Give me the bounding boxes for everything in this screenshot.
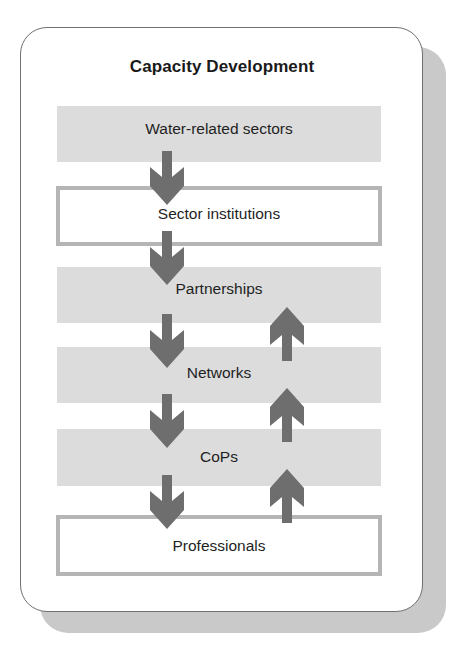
level-sector-institutions: Sector institutions: [56, 186, 382, 246]
level-label: Networks: [57, 364, 381, 382]
level-label: CoPs: [57, 448, 381, 466]
down-arrow-icon: [148, 394, 186, 449]
up-arrow-icon: [268, 469, 306, 524]
down-arrow-icon: [148, 475, 186, 530]
level-label: Partnerships: [57, 280, 381, 298]
down-arrow-icon: [148, 314, 186, 369]
level-networks: Networks: [57, 347, 381, 403]
level-professionals: Professionals: [56, 515, 382, 576]
down-arrow-icon: [148, 231, 186, 286]
level-partnerships: Partnerships: [57, 267, 381, 323]
up-arrow-icon: [268, 307, 306, 362]
level-cops: CoPs: [57, 429, 381, 486]
level-label: Professionals: [60, 537, 378, 555]
level-label: Sector institutions: [60, 205, 378, 223]
level-label: Water-related sectors: [57, 120, 381, 138]
diagram-title: Capacity Development: [20, 57, 424, 77]
level-water-related-sectors: Water-related sectors: [57, 106, 381, 162]
down-arrow-icon: [148, 151, 186, 206]
up-arrow-icon: [268, 388, 306, 443]
